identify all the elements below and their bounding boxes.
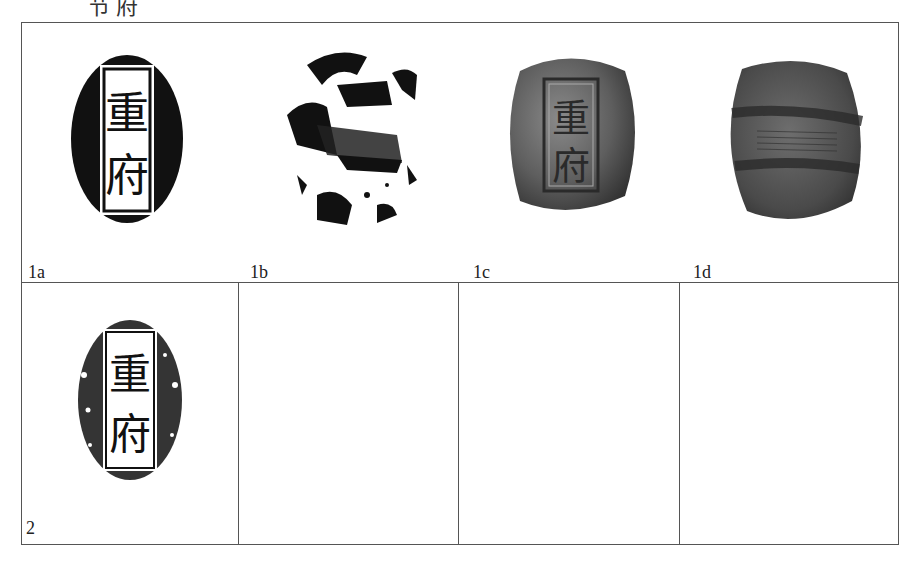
figure-row-2: 重 府 2	[22, 283, 898, 544]
figure-table: 重 府 1a 1b	[21, 22, 899, 545]
cell-divider	[679, 283, 680, 544]
inscription-char-1: 重	[552, 96, 590, 140]
inscription-char-2: 府	[109, 410, 151, 459]
seal-rubbing-1a: 重 府	[67, 51, 187, 226]
seal-photo-1d	[717, 51, 867, 226]
heading-fragment: 节府	[88, 0, 144, 20]
figure-label-1d: 1d	[693, 263, 711, 281]
seal-rubbing-2: 重 府	[70, 315, 190, 485]
figure-label-2: 2	[26, 519, 35, 537]
figure-label-1a: 1a	[28, 263, 45, 281]
figure-row-1: 重 府 1a 1b	[22, 23, 898, 283]
cell-divider	[458, 283, 459, 544]
cell-divider	[238, 283, 239, 544]
inscription-char-1: 重	[109, 350, 151, 399]
inscription-char-2: 府	[105, 150, 149, 201]
seal-photo-1c: 重 府	[500, 51, 640, 216]
figure-label-1c: 1c	[473, 263, 490, 281]
seal-rubbing-1b	[277, 45, 437, 235]
inscription-char-2: 府	[552, 144, 590, 188]
inscription-char-1: 重	[105, 88, 149, 139]
figure-label-1b: 1b	[250, 263, 268, 281]
